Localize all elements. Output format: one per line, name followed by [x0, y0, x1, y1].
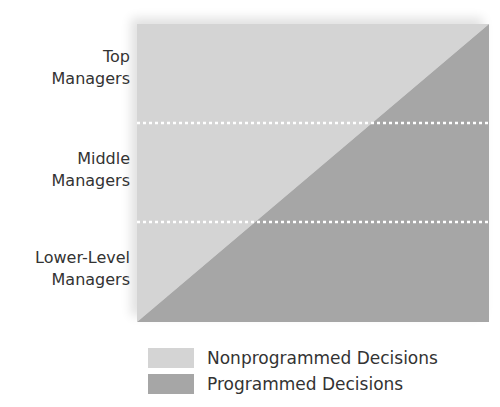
label-line: Top — [52, 46, 130, 68]
decision-triangles — [137, 24, 489, 322]
legend-label: Programmed Decisions — [207, 374, 403, 394]
diagram-plot-area — [137, 24, 489, 322]
legend: Nonprogrammed Decisions Programmed Decis… — [148, 345, 438, 397]
swatch-programmed-icon — [148, 374, 194, 394]
label-line: Middle — [52, 148, 130, 170]
label-line: Lower-Level — [35, 247, 130, 269]
label-lower-level-managers: Lower-Level Managers — [35, 247, 130, 291]
legend-label: Nonprogrammed Decisions — [207, 348, 438, 368]
label-line: Managers — [52, 170, 130, 192]
swatch-nonprogrammed-icon — [148, 348, 194, 368]
label-line: Managers — [52, 68, 130, 90]
label-top-managers: Top Managers — [52, 46, 130, 90]
legend-item-programmed: Programmed Decisions — [148, 371, 438, 397]
legend-item-nonprogrammed: Nonprogrammed Decisions — [148, 345, 438, 371]
label-line: Managers — [35, 269, 130, 291]
label-middle-managers: Middle Managers — [52, 148, 130, 192]
